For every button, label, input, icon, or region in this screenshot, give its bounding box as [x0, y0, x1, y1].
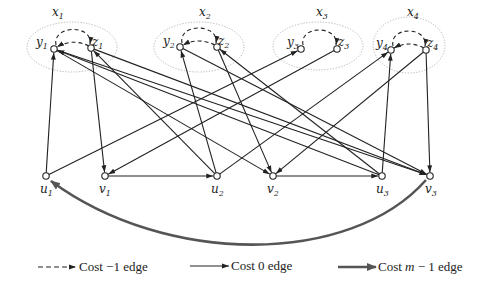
dashed-edge-z4-to-y4 — [394, 44, 424, 48]
legend-label-cost-neg1: Cost −1 edge — [79, 259, 148, 274]
node-v2 — [270, 173, 276, 179]
node-z3-label: z3 — [337, 35, 349, 51]
node-u3-label: u3 — [376, 182, 389, 198]
dashed-edge-z1-to-y1 — [57, 42, 89, 47]
legend-item-thick: Cost m − 1 edge — [338, 259, 463, 274]
edge-u1-to-y3 — [49, 51, 298, 175]
node-v1 — [102, 173, 108, 179]
node-y2-label: y2 — [162, 34, 175, 50]
group-x3-label: x3 — [316, 5, 328, 21]
legend: Cost −1 edge Cost 0 edge Cost m − 1 edge — [38, 258, 463, 274]
cost-0-edges — [46, 48, 430, 176]
legend-label-cost-m1: Cost m − 1 edge — [378, 259, 463, 274]
node-y4 — [388, 47, 394, 53]
node-u1 — [43, 173, 49, 179]
node-u3 — [379, 173, 385, 179]
legend-item-dashed: Cost −1 edge — [38, 259, 148, 274]
node-z2-label: z2 — [217, 34, 229, 50]
graph-diagram: x1x2x3x4 y1z1y2z2y3z3y4z4u1v1u2v2u3v3 Co… — [0, 0, 501, 285]
node-y4-label: y4 — [375, 36, 388, 52]
group-x4-label: x4 — [407, 5, 419, 21]
node-v2-label: v2 — [267, 182, 279, 198]
dashed-edge-z2-to-y2 — [183, 41, 215, 45]
edge-y1-to-v2 — [57, 51, 270, 175]
edge-u2-to-z1 — [94, 51, 215, 174]
node-u2 — [214, 173, 220, 179]
group-x1-label: x1 — [52, 5, 64, 21]
dashed-edge-y3-to-z3 — [303, 30, 336, 45]
legend-item-solid: Cost 0 edge — [190, 258, 293, 273]
legend-label-cost-0: Cost 0 edge — [231, 258, 293, 273]
node-v3 — [427, 173, 433, 179]
node-y1 — [51, 46, 57, 52]
edge-u2-to-y2 — [181, 51, 216, 173]
node-y1-label: y1 — [35, 35, 48, 51]
edge-y1-to-v3 — [57, 50, 426, 175]
edge-z1-to-v1 — [91, 51, 104, 172]
edge-u1-to-y1 — [46, 53, 54, 173]
edge-z1-to-v3 — [94, 49, 427, 175]
node-u2-label: u2 — [211, 182, 224, 198]
node-v1-label: v1 — [99, 182, 111, 198]
node-y2 — [177, 44, 183, 50]
node-u1-label: u1 — [40, 182, 53, 198]
node-y3-label: y3 — [286, 35, 299, 51]
group-x2-label: x2 — [199, 5, 211, 21]
node-z1-label: z1 — [91, 35, 103, 51]
edge-z4-to-v3 — [426, 53, 430, 172]
node-v3-label: v3 — [425, 182, 437, 198]
node-z4-label: z4 — [426, 36, 438, 52]
